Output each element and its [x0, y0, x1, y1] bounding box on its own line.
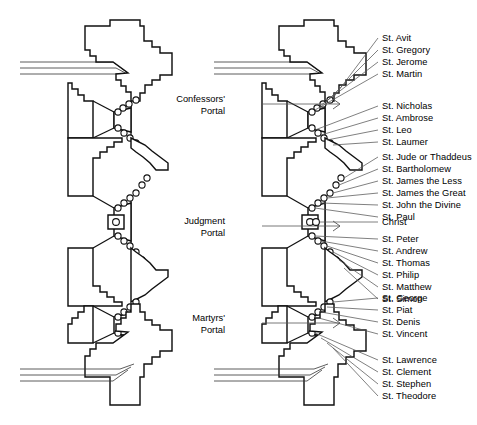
statue-label: St. Jude or Thaddeus — [382, 151, 472, 163]
statue-label: St. Denis — [382, 316, 427, 328]
left-judgment-jambs-north — [115, 175, 150, 211]
right-upper-west-wall — [262, 83, 287, 138]
right-lower-west-wall — [262, 306, 287, 343]
statue-label-group-judgment-left: St. Jude or Thaddeus St. Bartholomew St.… — [382, 151, 472, 224]
statue-label: St. Laumer — [382, 136, 433, 148]
statue-label: St. Gregory — [382, 44, 430, 56]
statue-label-group-confessors-left: St. Avit St. Gregory St. Jerome St. Mart… — [382, 32, 430, 80]
statue-label: St. Theodore — [382, 390, 437, 402]
statue-label: St. Avit — [382, 32, 430, 44]
left-middle-north-east — [131, 138, 168, 170]
statue-label: St. Clement — [382, 366, 437, 378]
statue-label: St. James the Great — [382, 187, 472, 199]
statue-label: St. Nicholas — [382, 100, 433, 112]
statue-label-christ: Christ — [382, 216, 407, 228]
statue-label: St. Martin — [382, 68, 430, 80]
statue-label: St. Piat — [382, 304, 427, 316]
left-upper-pier — [85, 20, 172, 101]
portal-label-martyrs-line1: Martyrs' — [140, 313, 225, 325]
statue-label: St. Peter — [382, 233, 432, 245]
portal-label-confessors-line2: Portal — [140, 106, 225, 118]
statue-label-group-judgment-trumeau: Christ — [382, 216, 407, 228]
statue-label: St. Bartholomew — [382, 163, 472, 175]
statue-label: St. George — [382, 292, 427, 304]
portal-label-judgment-line2: Portal — [140, 228, 225, 240]
left-middle-south-east — [131, 248, 168, 302]
statue-label: St. Leo — [382, 124, 433, 136]
portal-label-martyrs-line2: Portal — [140, 325, 225, 337]
statue-label: St. Andrew — [382, 245, 432, 257]
right-plan-group — [214, 20, 366, 405]
left-lower-west-wall — [68, 306, 93, 343]
right-upper-pier — [279, 20, 366, 101]
statue-label: St. Vincent — [382, 328, 427, 340]
statue-label: St. Lawrence — [382, 354, 437, 366]
portal-label-judgment: Judgment Portal — [140, 216, 225, 239]
portal-label-martyrs: Martyrs' Portal — [140, 313, 225, 336]
portal-label-confessors: Confessors' Portal — [140, 94, 225, 117]
left-middle-north — [68, 138, 122, 196]
left-middle-south — [68, 248, 122, 306]
left-plan-group — [20, 20, 172, 405]
right-middle-north — [262, 138, 316, 196]
portal-pointer-judgment — [262, 221, 340, 231]
statue-label: St. Stephen — [382, 378, 437, 390]
statue-label-group-martyrs-right: St. Lawrence St. Clement St. Stephen St.… — [382, 354, 437, 402]
statue-label: St. Ambrose — [382, 112, 433, 124]
portal-label-judgment-line1: Judgment — [140, 216, 225, 228]
portal-label-confessors-line1: Confessors' — [140, 94, 225, 106]
statue-label: St. Philip — [382, 269, 432, 281]
left-trumeau-circle — [113, 219, 120, 226]
right-middle-south — [262, 248, 316, 306]
right-middle-north-east — [325, 138, 362, 170]
portal-plan-diagram: Confessors' Portal Judgment Portal Marty… — [0, 0, 477, 425]
statue-label-group-confessors-right: St. Nicholas St. Ambrose St. Leo St. Lau… — [382, 100, 433, 148]
right-judgment-jambs-north — [309, 175, 344, 211]
left-upper-west-wall — [68, 83, 93, 138]
statue-label: St. Jerome — [382, 56, 430, 68]
statue-label: St. John the Divine — [382, 199, 472, 211]
statue-label: St. James the Less — [382, 175, 472, 187]
statue-label-group-martyrs-left: St. George St. Piat St. Denis St. Vincen… — [382, 292, 427, 340]
statue-label: St. Thomas — [382, 257, 432, 269]
